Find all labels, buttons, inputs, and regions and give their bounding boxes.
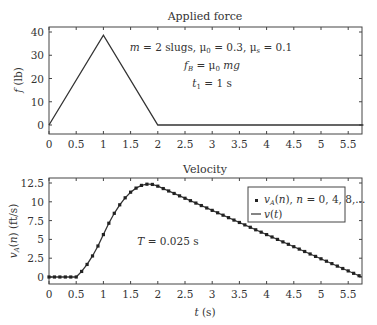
sample-marker <box>53 275 56 278</box>
sample-marker <box>330 262 333 265</box>
sample-marker <box>341 267 344 270</box>
sample-marker <box>211 209 214 212</box>
sample-marker <box>124 196 127 199</box>
y-tick-label: 10 <box>31 96 44 108</box>
sample-marker <box>140 184 143 187</box>
x-tick-label: 4.5 <box>285 288 302 300</box>
legend-curve-label: v(t) <box>264 208 282 220</box>
y-tick-label: 7.5 <box>27 215 44 227</box>
x-tick-label: 4.5 <box>285 138 302 150</box>
sample-marker <box>352 272 355 275</box>
sample-marker <box>151 183 154 186</box>
sample-marker <box>303 250 306 253</box>
x-tick-label: 0 <box>46 138 53 150</box>
figure: Applied force 00.511.522.533.544.555.501… <box>0 0 377 325</box>
y-tick-label: 40 <box>31 26 44 38</box>
sample-marker <box>249 226 252 229</box>
sample-marker <box>205 206 208 209</box>
x-tick-label: 2 <box>154 288 161 300</box>
t1-annotation: t1 = 1 s <box>192 77 232 91</box>
sample-marker <box>69 275 72 278</box>
x-tick-label: 3 <box>209 288 216 300</box>
velocity-ylabel: vA(n) (ft/s) <box>7 204 21 259</box>
sample-marker <box>281 240 284 243</box>
sample-marker <box>194 201 197 204</box>
x-tick-label: 5.5 <box>340 288 357 300</box>
y-tick-label: 2.5 <box>27 252 44 264</box>
force-title: Applied force <box>167 10 243 23</box>
x-tick-label: 3.5 <box>231 288 248 300</box>
x-tick-label: 5 <box>318 288 325 300</box>
x-tick-label: 3 <box>209 138 216 150</box>
y-tick-label: 12.5 <box>21 177 44 189</box>
sampling-annotation: T = 0.025 s <box>137 235 198 247</box>
x-tick-label: 2.5 <box>177 288 194 300</box>
sample-marker <box>221 214 224 217</box>
velocity-panel: Velocity 00.511.522.533.544.555.502.557.… <box>7 163 365 318</box>
x-tick-label: 2 <box>154 138 161 150</box>
sample-marker <box>319 257 322 260</box>
sample-marker <box>336 264 339 267</box>
sample-marker <box>314 255 317 258</box>
sample-marker <box>238 221 241 224</box>
sample-marker <box>64 275 67 278</box>
sample-marker <box>129 191 132 194</box>
sample-marker <box>178 194 181 197</box>
sample-marker <box>75 275 78 278</box>
sample-marker <box>292 245 295 248</box>
y-tick-label: 5 <box>37 233 44 245</box>
sample-marker <box>270 235 273 238</box>
sample-marker <box>276 238 279 241</box>
sample-marker <box>200 204 203 207</box>
sample-marker <box>287 243 290 246</box>
velocity-title: Velocity <box>182 163 228 176</box>
x-tick-label: 0.5 <box>68 138 85 150</box>
fb-annotation: fB = μ0 mg <box>183 59 240 73</box>
sample-marker <box>113 212 116 215</box>
x-tick-label: 1.5 <box>122 288 139 300</box>
force-ylabel: f (lb) <box>12 67 24 94</box>
x-tick-label: 4 <box>263 288 270 300</box>
sample-marker <box>309 252 312 255</box>
sample-marker <box>96 244 99 247</box>
x-tick-label: 1.5 <box>122 138 139 150</box>
x-tick-label: 4 <box>263 138 270 150</box>
sample-marker <box>145 183 148 186</box>
sample-marker <box>243 223 246 226</box>
sample-marker <box>325 260 328 263</box>
y-tick-label: 0 <box>37 271 44 283</box>
x-tick-label: 5.5 <box>340 138 357 150</box>
x-tick-label: 0.5 <box>68 288 85 300</box>
x-tick-label: 5 <box>318 138 325 150</box>
sample-marker <box>347 269 350 272</box>
sample-marker <box>91 254 94 257</box>
sample-marker <box>265 233 268 236</box>
x-tick-label: 1 <box>100 138 107 150</box>
velocity-xlabel: t (s) <box>194 306 215 318</box>
y-tick-label: 20 <box>31 73 44 85</box>
sample-marker <box>107 222 110 225</box>
param-annotation: m = 2 slugs, μ0 = 0.3, μs = 0.1 <box>130 41 292 55</box>
sample-marker <box>254 228 257 231</box>
sample-marker <box>102 233 105 236</box>
x-tick-label: 3.5 <box>231 138 248 150</box>
sample-marker <box>58 275 61 278</box>
legend: vA(n), n = 0, 4, 8,... v(t) <box>248 187 365 222</box>
y-tick-label: 10 <box>31 196 44 208</box>
sample-marker <box>298 248 301 251</box>
y-tick-label: 0 <box>37 119 44 131</box>
sample-marker <box>167 189 170 192</box>
x-tick-label: 2.5 <box>177 138 194 150</box>
x-tick-label: 1 <box>100 288 107 300</box>
sample-marker <box>156 185 159 188</box>
sample-marker <box>162 187 165 190</box>
sample-marker <box>118 203 121 206</box>
x-tick-label: 0 <box>46 288 53 300</box>
sample-marker <box>80 270 83 273</box>
sample-marker <box>357 274 360 277</box>
sample-marker <box>260 231 263 234</box>
sample-marker <box>183 197 186 200</box>
sample-marker <box>232 218 235 221</box>
force-panel: Applied force 00.511.522.533.544.555.501… <box>12 10 363 150</box>
sample-marker <box>216 211 219 214</box>
